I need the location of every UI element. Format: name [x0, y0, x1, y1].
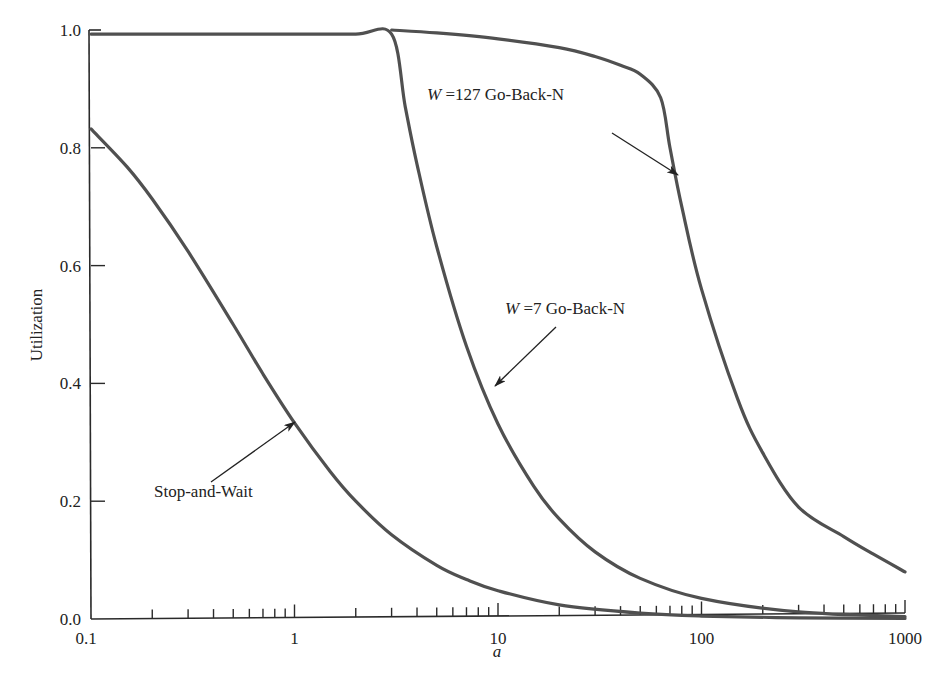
annotation-label: Stop-and-Wait: [154, 482, 253, 501]
annotation-label: W =7 Go-Back-N: [505, 299, 625, 318]
y-tick-label: 0.2: [60, 492, 81, 511]
y-tick-label: 0.0: [60, 610, 81, 629]
y-tick-label: 0.4: [60, 374, 82, 393]
w127-go-back-n-curve: [392, 30, 905, 572]
x-tick-label: 1: [290, 629, 299, 648]
y-tick-label: 0.8: [60, 139, 81, 158]
y-tick-label: 0.6: [60, 257, 81, 276]
data-curves: [91, 29, 905, 619]
x-axis-title: a: [493, 642, 502, 661]
w7-go-back-n-curve: [91, 29, 905, 617]
arrow-icon: [495, 327, 556, 386]
stop-and-wait-curve: [91, 129, 905, 618]
y-axis-title: Utilization: [27, 288, 46, 361]
x-tick-label: 0.1: [75, 629, 96, 648]
w7-annotation: W =7 Go-Back-N: [495, 299, 625, 386]
x-tick-label: 100: [689, 629, 715, 648]
w127-annotation: W =127 Go-Back-N: [427, 85, 678, 175]
annotation-label: W =127 Go-Back-N: [427, 85, 564, 104]
y-axis: [89, 30, 91, 619]
y-axis-ticks: 0.00.20.40.60.81.0: [60, 21, 105, 629]
arrow-icon: [211, 422, 295, 482]
axes: [89, 30, 905, 619]
y-tick-label: 1.0: [60, 21, 81, 40]
curve-annotations: W =127 Go-Back-NW =7 Go-Back-NStop-and-W…: [154, 85, 678, 501]
x-tick-label: 1000: [888, 629, 922, 648]
x-axis-ticks: 0.11101001000: [75, 600, 922, 648]
utilization-chart: 0.11101001000 0.00.20.40.60.81.0 W =127 …: [0, 0, 943, 690]
stop-and-wait-annotation: Stop-and-Wait: [154, 422, 295, 501]
